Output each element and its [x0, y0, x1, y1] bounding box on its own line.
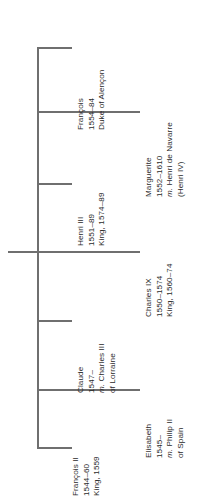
person-dates: 1552–1610 [155, 122, 166, 197]
person-dates: 1551–89 [87, 192, 98, 246]
branch-francois-dalencon [37, 47, 72, 49]
person-name: Henri III [76, 192, 87, 246]
person-name: Marguerite [144, 122, 155, 197]
person-marriage: m. Philip II [165, 419, 176, 458]
branch-charles-ix [37, 251, 140, 253]
person-dates: 1544–60 [82, 456, 93, 496]
person-name: Elisabeth [144, 419, 155, 458]
tree-root-stem [8, 251, 38, 253]
person-dates: 1545– [155, 419, 166, 458]
person-label-francois-ii: François II 1544–60 King, 1559 [71, 456, 103, 496]
family-tree-diagram: François 1554–84 Duke of Alençon Marguer… [0, 0, 223, 500]
branch-henri-iii [37, 183, 72, 185]
person-name: François [76, 70, 87, 130]
person-note: Duke of Alençon [97, 70, 108, 130]
person-note: (Henri IV) [176, 122, 187, 197]
person-marriage: m. Charles III [97, 343, 108, 393]
person-name: Charles IX [144, 263, 155, 317]
person-reign: King, 1560–74 [165, 263, 176, 317]
person-note: of Lorraine [108, 343, 119, 393]
person-marriage: m. Henri de Navarre [165, 122, 176, 197]
person-dates: 1547– [87, 343, 98, 393]
person-name: Claude [76, 343, 87, 393]
person-note: of Spain [176, 419, 187, 458]
branch-claude [37, 320, 72, 322]
person-reign: King, 1574–89 [97, 192, 108, 246]
person-name: François II [71, 456, 82, 496]
person-label-marguerite: Marguerite 1552–1610 m. Henri de Navarre… [144, 122, 187, 197]
tree-spine [37, 47, 39, 448]
person-label-francois-dalencon: François 1554–84 Duke of Alençon [76, 70, 108, 130]
branch-francois-ii [37, 447, 72, 449]
person-dates: 1554–84 [87, 70, 98, 130]
person-label-claude: Claude 1547– m. Charles III of Lorraine [76, 343, 119, 393]
person-reign: King, 1559 [92, 456, 103, 496]
person-dates: 1550–1574 [155, 263, 166, 317]
person-label-henri-iii: Henri III 1551–89 King, 1574–89 [76, 192, 108, 246]
person-label-elisabeth: Elisabeth 1545– m. Philip II of Spain [144, 419, 187, 458]
person-label-charles-ix: Charles IX 1550–1574 King, 1560–74 [144, 263, 176, 317]
